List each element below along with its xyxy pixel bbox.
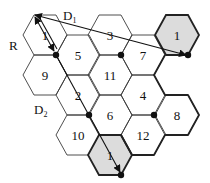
cell-label: 11 (104, 68, 117, 83)
cell-label: 10 (72, 128, 85, 143)
cell-label: 8 (174, 108, 181, 123)
hex-cell-c11: 11 (88, 55, 132, 95)
cell-label: 1 (174, 28, 181, 43)
diagram-canvas: 19521031167412811 R D1 D2 (0, 0, 210, 183)
vertex-dot (118, 52, 124, 58)
vertex-dot (151, 112, 157, 118)
d2-label: D2 (34, 102, 47, 119)
hex-cell-c9: 9 (23, 55, 67, 95)
hex-cell-c6: 6 (88, 95, 132, 135)
hex-cell-c1c: 1 (88, 135, 132, 175)
hex-cell-c5: 5 (56, 35, 100, 75)
cell-label: 7 (140, 48, 147, 63)
cell-label: 4 (140, 88, 147, 103)
cell-label: 9 (42, 68, 49, 83)
cell-label: 12 (137, 128, 150, 143)
radius-arrow-line-a (35, 17, 54, 51)
cell-label: 5 (75, 48, 82, 63)
vertex-dot (53, 52, 59, 58)
vertex-dot (185, 52, 191, 58)
cell-label: 6 (107, 108, 114, 123)
radius-label: R (9, 38, 18, 53)
vertex-dot (86, 112, 92, 118)
d1-label: D1 (63, 8, 76, 25)
vertex-dot (118, 172, 124, 178)
cellular-hex-diagram: 19521031167412811 R D1 D2 (0, 0, 210, 183)
